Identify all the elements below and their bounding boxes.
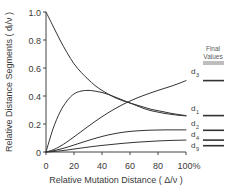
series-label-d2: d 2 xyxy=(191,119,199,130)
series-label-d3: d 3 xyxy=(191,67,199,78)
curve-d1 xyxy=(46,12,186,116)
series-label-text: d xyxy=(191,67,195,76)
curve-d2 xyxy=(46,90,186,152)
series-label-subscript: 2 xyxy=(196,124,199,130)
chart-figure: 1.0 0.8 0.6 0.4 0.2 0 0 20 40 60 80 100% xyxy=(0,0,231,189)
final-values-line1: Final xyxy=(206,45,221,52)
y-tick-label: 0.8 xyxy=(28,36,41,46)
final-value-marks xyxy=(203,81,224,146)
y-tick-label: 0.4 xyxy=(28,92,41,102)
chart-svg: 1.0 0.8 0.6 0.4 0.2 0 0 20 40 60 80 100% xyxy=(0,0,231,189)
series-label-text: d xyxy=(191,119,195,128)
series-label-d1: d 1 xyxy=(191,104,199,115)
series-label-text: d xyxy=(191,141,195,150)
y-tick-label: 0.2 xyxy=(28,120,41,130)
x-tick-label: 40 xyxy=(97,161,107,171)
x-axis-title: Relative Mutation Distance ( Δ/ν ) xyxy=(49,175,183,185)
series-label-subscript: 9 xyxy=(196,146,199,152)
series-label-d9: d 9 xyxy=(191,141,199,152)
x-tick-label: 80 xyxy=(153,161,163,171)
y-tick-label: 0.6 xyxy=(28,64,41,74)
curve-group xyxy=(46,12,186,152)
series-label-text: d xyxy=(191,130,195,139)
final-values-annotation: Final Values xyxy=(203,45,224,64)
series-label-subscript: 3 xyxy=(196,72,199,78)
y-tick-label: 0 xyxy=(36,148,41,158)
x-axis-tick-labels: 0 20 40 60 80 100% xyxy=(43,161,200,171)
series-label-subscript: 1 xyxy=(196,109,199,115)
final-values-line2: Values xyxy=(203,53,223,60)
y-axis-tick-labels: 1.0 0.8 0.6 0.4 0.2 0 xyxy=(28,8,41,158)
curve-d3 xyxy=(46,81,186,152)
series-label-d4: d 4 xyxy=(191,130,199,141)
x-tick-label: 100% xyxy=(177,161,200,171)
x-tick-label: 0 xyxy=(43,161,48,171)
y-tick-label: 1.0 xyxy=(28,8,41,18)
x-tick-label: 60 xyxy=(125,161,135,171)
x-tick-label: 20 xyxy=(69,161,79,171)
series-label-text: d xyxy=(191,104,195,113)
y-axis-title: Relative Distance Segments ( dᵢ/ν ) xyxy=(4,12,14,152)
series-label-subscript: 4 xyxy=(196,135,199,141)
